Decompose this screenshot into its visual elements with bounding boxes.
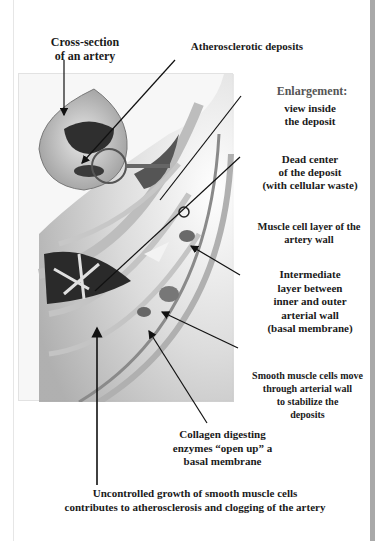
label-muscle-cell-layer: Muscle cell layer of the artery wall [248, 220, 370, 246]
label-atherosclerotic-deposits: Atherosclerotic deposits [162, 40, 332, 52]
artery-enlargement-graphic [19, 74, 234, 402]
label-enlargement-heading: Enlargement: [252, 84, 372, 98]
label-cross-section: Cross-section of an artery [30, 35, 140, 63]
label-intermediate-layer: Intermediate layer between inner and out… [255, 268, 365, 336]
label-smooth-muscle-cells: Smooth muscle cells move through arteria… [240, 369, 375, 421]
artery-illustration [18, 73, 233, 401]
left-margin-rule [13, 0, 14, 541]
label-dead-center: Dead center of the deposit (with cellula… [250, 153, 370, 192]
label-enlargement-sub: view inside the deposit [255, 102, 365, 128]
page-edge-bar [370, 0, 375, 541]
label-collagen-enzymes: Collagen digesting enzymes “open up” a b… [150, 428, 295, 469]
caption: Uncontrolled growth of smooth muscle cel… [20, 487, 370, 514]
